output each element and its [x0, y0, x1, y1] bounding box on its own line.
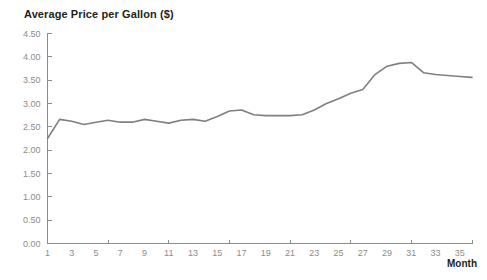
x-tick-label: 15	[212, 248, 222, 258]
x-tick-label: 11	[164, 248, 173, 258]
x-tick-label: 33	[431, 248, 441, 258]
x-tick-label: 25	[334, 248, 344, 258]
x-tick-label: 23	[309, 248, 319, 258]
x-tick-label: 3	[69, 248, 74, 258]
x-tick-label: 9	[142, 248, 147, 258]
x-tick-label: 29	[382, 248, 392, 258]
x-tick-label: 5	[94, 248, 99, 258]
x-tick-label: 7	[118, 248, 123, 258]
x-tick-label: 31	[406, 248, 416, 258]
x-tick-label: 13	[188, 248, 198, 258]
y-tick-label: 2.50	[23, 122, 41, 132]
y-tick-label: 2.00	[23, 145, 41, 155]
x-axis-tick-group: 1357911131517192123252729313335	[45, 240, 472, 259]
y-tick-label: 0.00	[23, 239, 41, 249]
y-tick-label: 3.00	[23, 99, 41, 109]
y-tick-label: 1.00	[23, 192, 41, 202]
y-tick-label: 4.00	[23, 52, 41, 62]
y-tick-label: 3.50	[23, 75, 41, 85]
x-tick-label: 27	[358, 248, 368, 258]
x-tick-label: 19	[261, 248, 271, 258]
y-tick-label: 1.50	[23, 169, 41, 179]
x-tick-label: 1	[45, 248, 50, 258]
x-axis-title: Month	[447, 258, 477, 269]
x-tick-label: 21	[285, 248, 295, 258]
y-tick-label: 0.50	[23, 215, 41, 225]
price-series-line	[48, 62, 473, 138]
x-tick-label: 35	[455, 248, 465, 258]
y-tick-label: 4.50	[23, 29, 41, 39]
line-chart-plot: 0.000.501.001.502.002.503.003.504.004.50…	[0, 0, 487, 280]
x-tick-label: 17	[237, 248, 247, 258]
chart-container: Average Price per Gallon ($) 0.000.501.0…	[0, 0, 487, 280]
